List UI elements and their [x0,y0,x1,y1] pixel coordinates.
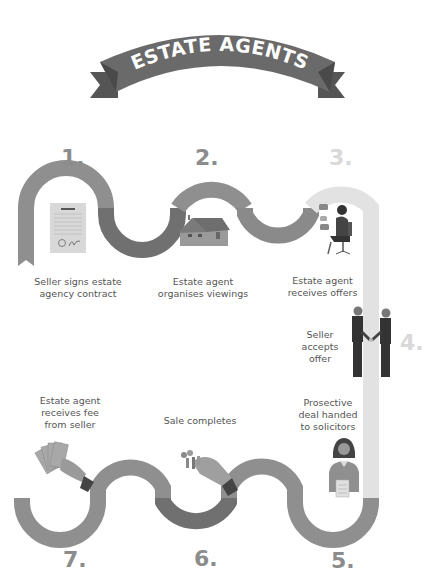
road-segment-6 [163,498,229,521]
step-caption-4: Seller accepts offer [295,329,345,365]
road-end-notch [14,490,30,498]
step-number-1: 1. [61,147,85,169]
step-caption-1: Seller signs estate agency contract [18,276,138,300]
money-fan-icon [35,442,94,492]
step-caption-3: Estate agent receives offers [280,275,365,299]
step-caption-2: Estate agent organises viewings [148,276,258,300]
estate-agents-infographic: ESTATE AGENTS [0,0,433,586]
road-segment-7 [22,498,98,540]
step-caption-6: Sale completes [150,415,250,427]
road-segment-2 [178,190,245,208]
step-number-5: 5. [331,550,355,572]
step-number-3: 3. [329,147,353,169]
step-number-7: 7. [63,549,87,571]
step-number-4: 4. [400,332,424,354]
road-segment-5-6 [229,466,295,498]
contract-document-icon [50,203,86,253]
agent-on-chair-icon [319,204,352,254]
step-caption-5: Prosective deal handed to solicitors [288,397,368,433]
step-number-2: 2. [195,147,219,169]
road-segment-2-3 [245,208,311,236]
step-number-6: 6. [194,548,218,570]
road-segment-1-2 [106,208,178,250]
house-icon [178,215,230,246]
road-start-notch [18,256,34,266]
road-segment-6-7 [98,467,163,502]
step-caption-7: Estate agent receives fee from seller [30,395,110,431]
road-segment-5 [295,498,371,540]
solicitor-icon [329,438,359,497]
